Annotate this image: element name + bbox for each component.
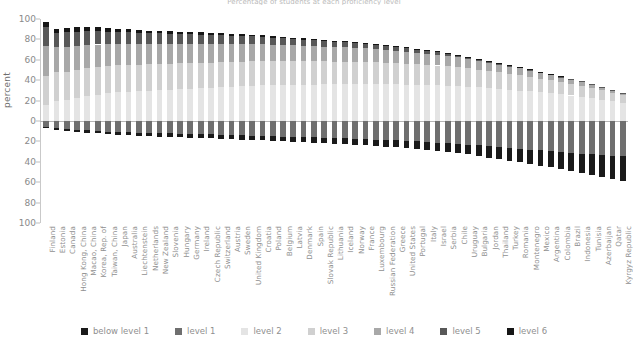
bar-column[interactable]: [208, 19, 214, 223]
bar-column[interactable]: [414, 19, 420, 223]
bar-column[interactable]: [43, 19, 49, 223]
bar-column[interactable]: [157, 19, 163, 223]
bar-column[interactable]: [373, 19, 379, 223]
bar-column[interactable]: [95, 19, 101, 223]
bar-column[interactable]: [167, 19, 173, 223]
bar-column[interactable]: [496, 19, 502, 223]
bar-segment: [393, 46, 399, 47]
bar-column[interactable]: [74, 19, 80, 223]
bar-column[interactable]: [229, 19, 235, 223]
bar-segment: [290, 38, 296, 39]
x-category-label: Serbia: [450, 226, 457, 250]
bar-column[interactable]: [239, 19, 245, 223]
legend-item[interactable]: level 5: [440, 326, 480, 336]
bar-column[interactable]: [558, 19, 564, 223]
bar-column[interactable]: [548, 19, 554, 223]
bar-column[interactable]: [198, 19, 204, 223]
bar-column[interactable]: [249, 19, 255, 223]
bar-column[interactable]: [435, 19, 441, 223]
bar-segment: [342, 41, 348, 42]
bar-column[interactable]: [177, 19, 183, 223]
bar-segment: [105, 32, 111, 44]
bar-segment: [352, 139, 358, 145]
bar-column[interactable]: [538, 19, 544, 223]
bar-segment: [538, 150, 544, 165]
bar-segment: [177, 89, 183, 121]
bar-segment: [424, 142, 430, 150]
bar-segment: [157, 44, 163, 64]
bar-column[interactable]: [260, 19, 266, 223]
bar-column[interactable]: [352, 19, 358, 223]
bar-column[interactable]: [363, 19, 369, 223]
bar-column[interactable]: [187, 19, 193, 223]
bar-segment: [126, 65, 132, 92]
bar-column[interactable]: [218, 19, 224, 223]
bar-column[interactable]: [404, 19, 410, 223]
bar-segment: [527, 121, 533, 150]
bar-column[interactable]: [115, 19, 121, 223]
bar-column[interactable]: [301, 19, 307, 223]
bar-column[interactable]: [445, 19, 451, 223]
x-category-label: Mexico: [543, 226, 550, 252]
bar-column[interactable]: [270, 19, 276, 223]
bar-column[interactable]: [146, 19, 152, 223]
bar-column[interactable]: [311, 19, 317, 223]
bar-column[interactable]: [610, 19, 616, 223]
bar-segment: [95, 121, 101, 131]
bar-column[interactable]: [105, 19, 111, 223]
bar-segment: [126, 121, 132, 132]
bar-segment: [157, 64, 163, 90]
bar-column[interactable]: [465, 19, 471, 223]
bar-segment: [177, 121, 183, 134]
bar-column[interactable]: [290, 19, 296, 223]
bar-column[interactable]: [455, 19, 461, 223]
bar-column[interactable]: [579, 19, 585, 223]
x-category-label: Hong Kong, China: [80, 226, 87, 292]
bar-column[interactable]: [383, 19, 389, 223]
bar-segment: [455, 121, 461, 144]
bar-column[interactable]: [620, 19, 626, 223]
bar-segment: [383, 46, 389, 50]
bar-column[interactable]: [54, 19, 60, 223]
bar-column[interactable]: [527, 19, 533, 223]
bar-segment: [270, 61, 276, 85]
bar-column[interactable]: [599, 19, 605, 223]
legend-item[interactable]: level 1: [175, 326, 215, 336]
bar-segment: [352, 48, 358, 62]
bar-column[interactable]: [342, 19, 348, 223]
bar-column[interactable]: [321, 19, 327, 223]
bar-column[interactable]: [332, 19, 338, 223]
bar-column[interactable]: [507, 19, 513, 223]
bar-segment: [610, 156, 616, 179]
bar-segment: [229, 87, 235, 121]
legend-item[interactable]: level 4: [374, 326, 414, 336]
legend-item[interactable]: level 3: [308, 326, 348, 336]
bar-column[interactable]: [126, 19, 132, 223]
x-category-label: Norway: [358, 226, 365, 254]
bar-column[interactable]: [84, 19, 90, 223]
bar-segment: [527, 69, 533, 70]
bar-segment: [187, 89, 193, 121]
bar-column[interactable]: [64, 19, 70, 223]
x-category-label: Italy: [430, 226, 437, 242]
bar-column[interactable]: [517, 19, 523, 223]
bar-column[interactable]: [424, 19, 430, 223]
bar-column[interactable]: [568, 19, 574, 223]
bar-segment: [538, 79, 544, 93]
legend-item[interactable]: level 2: [241, 326, 281, 336]
legend-item[interactable]: below level 1: [81, 326, 149, 336]
bar-segment: [538, 72, 544, 73]
bar-segment: [404, 85, 410, 121]
bar-column[interactable]: [393, 19, 399, 223]
bar-column[interactable]: [280, 19, 286, 223]
bar-column[interactable]: [136, 19, 142, 223]
bar-column[interactable]: [476, 19, 482, 223]
bar-column[interactable]: [589, 19, 595, 223]
x-category-label: Israel: [440, 226, 447, 246]
bar-segment: [579, 81, 585, 82]
bar-column[interactable]: [486, 19, 492, 223]
bar-segment: [599, 155, 605, 177]
legend-item[interactable]: level 6: [507, 326, 547, 336]
bar-segment: [239, 36, 245, 44]
bar-segment: [136, 91, 142, 121]
